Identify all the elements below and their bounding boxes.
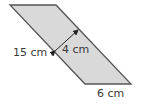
side-length-label: 15 cm xyxy=(13,46,47,59)
base-length-label: 6 cm xyxy=(97,87,124,100)
parallelogram-diagram: 15 cm 4 cm 6 cm xyxy=(0,0,148,106)
height-label: 4 cm xyxy=(62,43,89,56)
